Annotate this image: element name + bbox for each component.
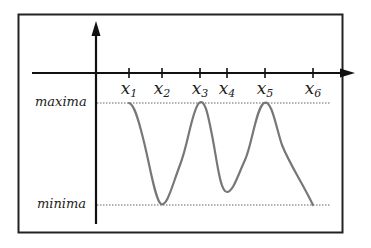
- label-x2: x2: [154, 78, 171, 100]
- label-x6: x6: [305, 78, 322, 100]
- label-x4: x4: [219, 78, 236, 100]
- function-curve: [129, 102, 313, 205]
- x-axis-arrow-icon: [340, 69, 355, 78]
- label-x1: x1: [121, 78, 138, 100]
- maxima-label: maxima: [35, 94, 87, 109]
- minima-label: minima: [37, 196, 86, 211]
- y-axis-arrow-icon: [92, 21, 101, 36]
- label-x5: x5: [257, 78, 274, 100]
- extrema-diagram: x1 x2 x3 x4 x5 x6 maxima minima: [0, 0, 371, 248]
- label-x3: x3: [192, 78, 209, 100]
